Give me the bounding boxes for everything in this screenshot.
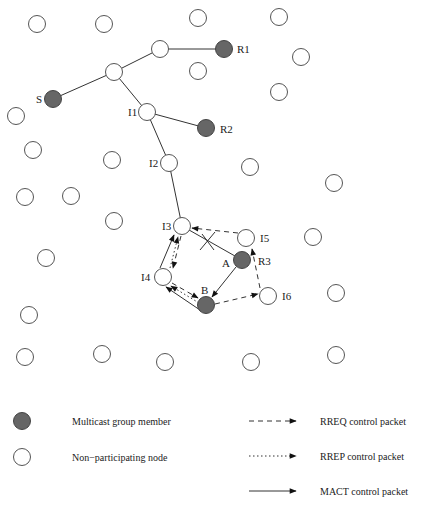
label-r2: R2 <box>220 123 233 135</box>
node-i5 <box>238 230 255 247</box>
legend-member-label: Multicast group member <box>72 416 172 427</box>
label-s: S <box>36 93 42 105</box>
node-i6 <box>260 288 277 305</box>
label-b: B <box>201 284 208 296</box>
label-i2: I2 <box>149 157 158 169</box>
non-participating-nodes <box>8 9 345 371</box>
node-r3 <box>234 252 251 269</box>
label-i6: I6 <box>282 290 292 302</box>
node-i3 <box>174 218 191 235</box>
node-i1 <box>139 104 156 121</box>
node-b <box>198 297 215 314</box>
legend-rreq-label: RREQ control packet <box>320 416 406 427</box>
label-i3: I3 <box>162 220 172 232</box>
label-i5: I5 <box>260 232 270 244</box>
broken-link <box>182 226 242 260</box>
legend-empty-icon <box>14 449 31 466</box>
label-a: A <box>222 257 230 269</box>
node-i4 <box>155 269 172 286</box>
legend-empty-label: Non−participating node <box>72 452 168 463</box>
label-i1: I1 <box>128 106 137 118</box>
legend-rrep-label: RREP control packet <box>320 451 404 462</box>
mact-arrows <box>160 235 236 310</box>
legend-member-icon <box>14 413 31 430</box>
label-i4: I4 <box>141 271 151 283</box>
node-r2 <box>198 120 215 137</box>
label-r3: R3 <box>258 255 271 267</box>
multicast-diagram: S R1 R2 I1 I2 I3 I4 I5 I6 A R3 B Multica… <box>0 0 427 514</box>
label-r1: R1 <box>237 43 250 55</box>
legend-mact-label: MACT control packet <box>320 486 408 497</box>
node-i2 <box>161 155 178 172</box>
legend: Multicast group member Non−participating… <box>14 413 409 498</box>
node-s <box>45 91 62 108</box>
node-r1 <box>216 41 233 58</box>
